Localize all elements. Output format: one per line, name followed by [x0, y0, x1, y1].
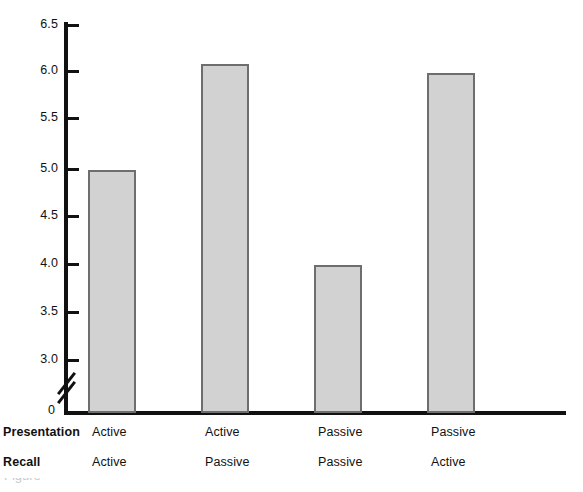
y-tick-3-0	[68, 359, 79, 362]
y-tick-6-5	[68, 24, 79, 27]
y-tick-5-5	[68, 117, 79, 120]
y-tick-4-0	[68, 263, 79, 266]
figure-caption-clipped: Figure	[0, 478, 583, 492]
bar-2	[201, 64, 249, 413]
figure-caption-text: Figure	[4, 478, 41, 483]
recall-value-2: Passive	[205, 456, 315, 469]
y-tick-label-3-5: 3.5	[20, 305, 58, 318]
y-tick-3-5	[68, 311, 79, 314]
row-header-recall: Recall	[3, 456, 40, 469]
y-tick-label-6-5: 6.5	[20, 18, 58, 31]
y-tick-label-6-0: 6.0	[20, 64, 58, 77]
y-tick-5-0	[68, 168, 79, 171]
presentation-value-4: Passive	[431, 426, 541, 439]
y-axis-line	[64, 22, 68, 415]
recall-value-3: Passive	[318, 456, 428, 469]
bar-3	[314, 265, 362, 413]
y-tick-label-5-5: 5.5	[20, 111, 58, 124]
y-tick-label-zero: 0	[48, 404, 55, 417]
row-header-presentation: Presentation	[3, 426, 80, 439]
category-label-table: Presentation Recall Active Active Passiv…	[0, 418, 583, 474]
presentation-value-1: Active	[92, 426, 202, 439]
recall-value-4: Active	[431, 456, 541, 469]
bar-chart: 6.5 6.0 5.5 5.0 4.5 4.0 3.5 3.0 0 Presen…	[0, 0, 583, 492]
recall-value-1: Active	[92, 456, 202, 469]
plot-area: 6.5 6.0 5.5 5.0 4.5 4.0 3.5 3.0 0	[0, 0, 583, 418]
presentation-value-3: Passive	[318, 426, 428, 439]
y-tick-label-3-0: 3.0	[20, 353, 58, 366]
axis-break-icon	[50, 372, 84, 402]
y-tick-6-0	[68, 70, 79, 73]
y-tick-label-4-0: 4.0	[20, 257, 58, 270]
y-tick-label-5-0: 5.0	[20, 162, 58, 175]
y-tick-4-5	[68, 215, 79, 218]
y-tick-label-4-5: 4.5	[20, 209, 58, 222]
bar-4	[427, 73, 475, 413]
bar-1	[88, 170, 136, 413]
presentation-value-2: Active	[205, 426, 315, 439]
